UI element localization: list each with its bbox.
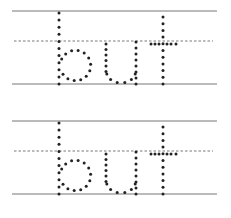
writing-row [12, 121, 217, 196]
letter-t [150, 126, 178, 196]
letter-b [58, 122, 93, 196]
dotted-word [58, 12, 178, 86]
letter-u [105, 41, 138, 86]
dotted-word [58, 122, 178, 196]
letter-u [105, 151, 138, 196]
writing-row [12, 11, 217, 86]
letter-b [58, 12, 93, 86]
handwriting-worksheet: but [0, 0, 231, 218]
letter-t [150, 16, 178, 86]
tracing-canvas [0, 0, 231, 218]
